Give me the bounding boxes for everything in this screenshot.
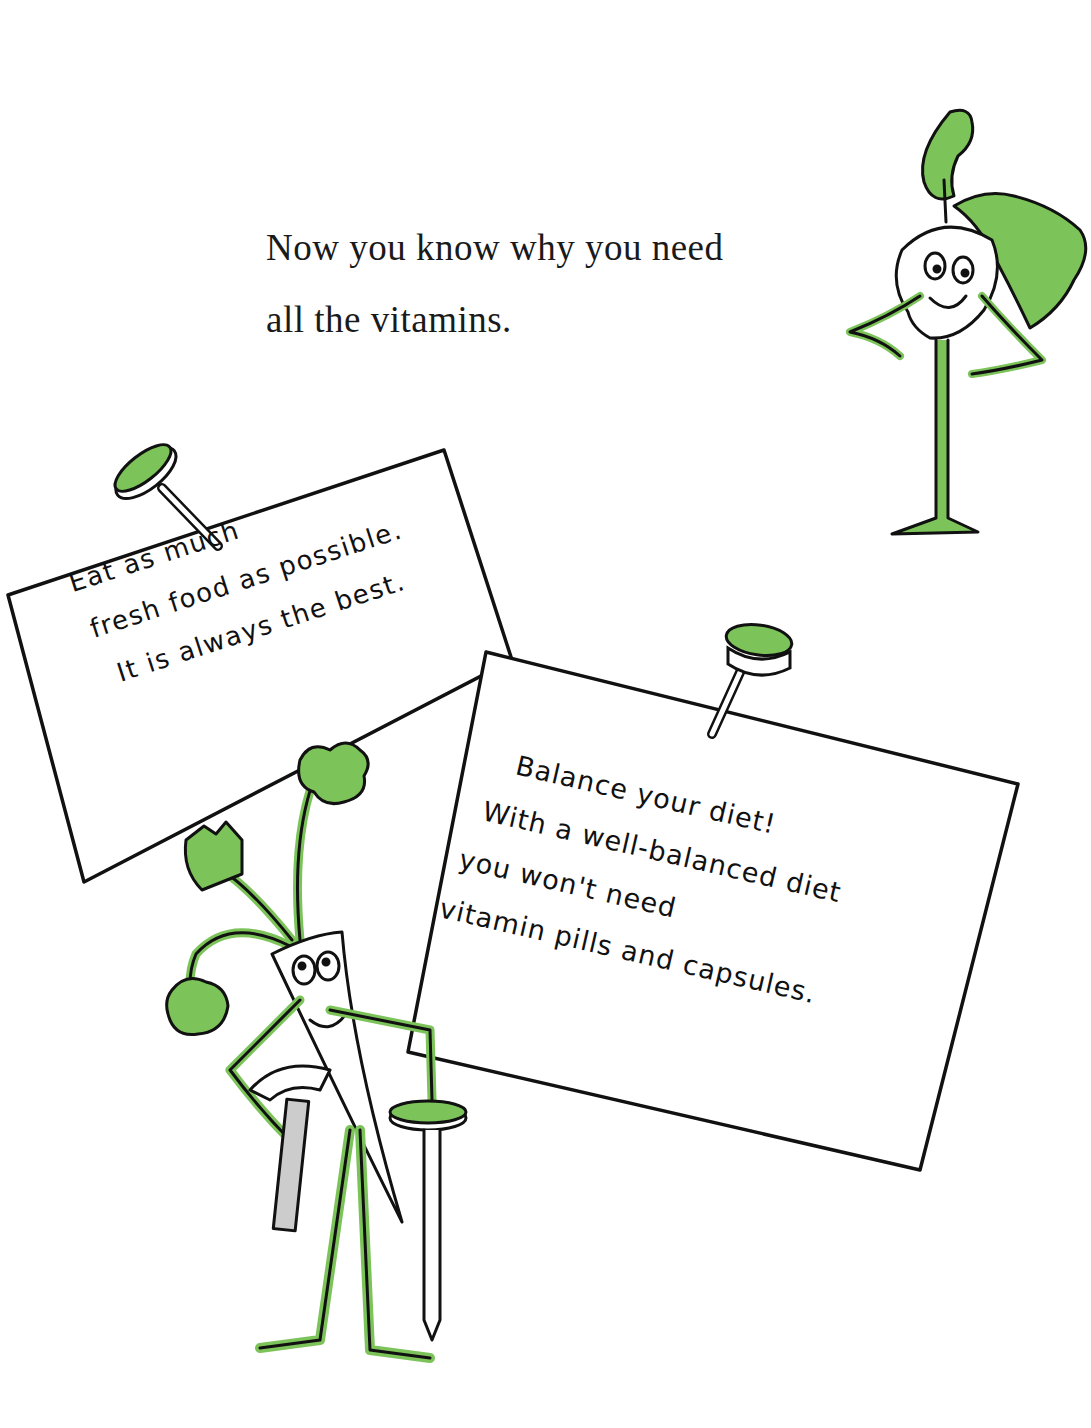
turnip-character-icon	[850, 110, 1086, 534]
storybook-page: Now you know why you need all the vitami…	[0, 0, 1091, 1428]
illustration-layer	[0, 0, 1091, 1428]
